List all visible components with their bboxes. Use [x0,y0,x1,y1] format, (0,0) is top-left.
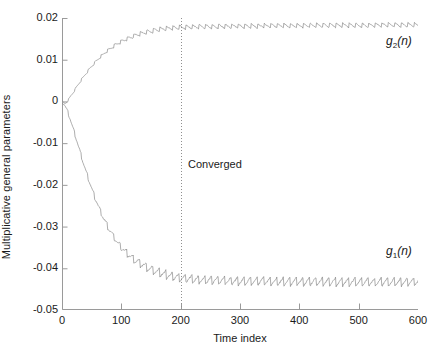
x-tick-label: 500 [339,314,379,326]
y-tick-label: -0.02 [24,178,58,190]
chart-figure: Multiplicative general parameters 0.02 0… [0,0,443,354]
y-tick-label: -0.03 [24,220,58,232]
g1-base: g [386,244,393,258]
y-axis-label: Multiplicative general parameters [0,0,16,354]
y-tick-label: 0 [24,94,58,106]
g1-arg: (n) [397,244,412,258]
g2-curve-label: g2(n) [386,34,412,50]
series-line-1 [62,22,418,103]
x-tick-label: 0 [42,314,82,326]
x-tick-label: 200 [161,314,201,326]
y-tick-label: -0.01 [24,136,58,148]
x-tick-label: 400 [279,314,319,326]
x-tick-label: 300 [220,314,260,326]
series-line-2 [62,103,418,287]
g2-base: g [386,34,393,48]
x-axis-label: Time index [62,332,418,344]
g1-curve-label: g1(n) [386,244,412,260]
y-tick-label: 0.02 [24,11,58,23]
y-tick-label: 0.01 [24,53,58,65]
x-tick-label: 100 [101,314,141,326]
x-tick-label: 600 [398,314,438,326]
g2-arg: (n) [397,34,412,48]
converged-annotation: Converged [188,158,242,170]
y-tick-label: -0.04 [24,261,58,273]
y-axis-tick-labels: 0.02 0.01 0 -0.01 -0.02 -0.03 -0.04 -0.0… [20,0,58,354]
